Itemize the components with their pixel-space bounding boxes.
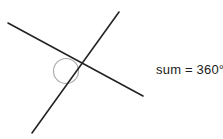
angles-at-a-point-figure [0,0,223,139]
figure-background [0,0,223,139]
diagram-canvas: sum = 360° [0,0,223,139]
